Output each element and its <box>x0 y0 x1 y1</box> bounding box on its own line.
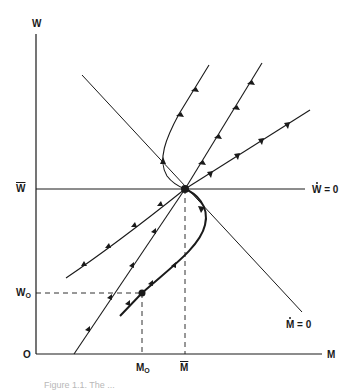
m-bar-label: M <box>180 363 188 373</box>
m-axis-end-label: M <box>327 350 335 360</box>
w0-label: WO <box>16 288 31 299</box>
w-bar-label: W <box>16 184 25 194</box>
arrowheads-lower <box>81 201 205 332</box>
m0-label-sub: O <box>144 367 149 374</box>
w-dot-eq: = 0 <box>321 184 338 195</box>
w-dot-var: W <box>312 185 321 195</box>
m-dot-zero-label: M = 0 <box>286 320 311 330</box>
origin-label: O <box>23 350 31 360</box>
initial-point <box>139 290 146 297</box>
equilibrium-point <box>181 185 189 193</box>
figure-caption: Figure 1.1. The ... <box>44 380 115 390</box>
m-dot-eq: = 0 <box>294 319 311 330</box>
w-axis-label: W <box>32 19 41 29</box>
w-dot-zero-label: W = 0 <box>312 185 338 195</box>
m0-label: MO <box>136 363 150 374</box>
w0-label-sub: O <box>25 292 30 299</box>
m-dot-var: M <box>286 320 294 330</box>
